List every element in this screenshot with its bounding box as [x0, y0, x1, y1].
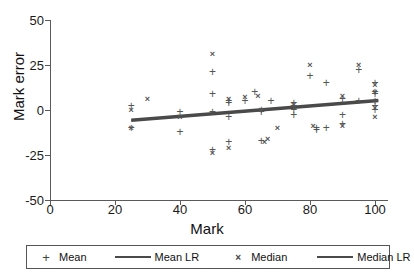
y-tick-label: 50 — [30, 13, 44, 28]
x-axis-title: Mark — [0, 220, 414, 237]
legend-plus-icon: + — [33, 250, 59, 265]
legend-line-swatch — [317, 256, 353, 258]
chart-figure: 50250-25-50 Mark error Mark ++++++++++++… — [0, 0, 414, 279]
x-tick-label: 20 — [108, 202, 122, 217]
y-tick-label: -50 — [25, 193, 44, 208]
x-tick-label: 100 — [364, 202, 386, 217]
legend-label: Median — [251, 251, 287, 263]
legend-item-median[interactable]: ×Median — [225, 246, 287, 268]
legend-line-swatch — [115, 256, 151, 258]
plot-area: ++++++++++++++++++++++++++++++++++++++××… — [50, 20, 388, 200]
legend-cross-icon: × — [225, 252, 251, 263]
chart-legend: +MeanMean LR×MedianMedian LR — [26, 245, 390, 269]
y-tick-label: -25 — [25, 148, 44, 163]
legend-item-mean-lr[interactable]: Mean LR — [111, 246, 200, 268]
y-axis-title: Mark error — [10, 17, 27, 157]
x-axis-tick-labels: 020406080100 — [50, 202, 388, 222]
legend-item-median-lr[interactable]: Median LR — [313, 246, 410, 268]
legend-label: Mean LR — [155, 251, 200, 263]
x-tick-label: 60 — [238, 202, 252, 217]
x-tick-label: 40 — [173, 202, 187, 217]
legend-label: Mean — [59, 251, 87, 263]
x-tick-label: 80 — [303, 202, 317, 217]
x-tick-label: 0 — [46, 202, 53, 217]
legend-item-mean[interactable]: +Mean — [33, 246, 87, 268]
y-tick-label: 25 — [30, 58, 44, 73]
regression-lines — [50, 20, 388, 200]
legend-label: Median LR — [357, 251, 410, 263]
y-tick-label: 0 — [37, 103, 44, 118]
